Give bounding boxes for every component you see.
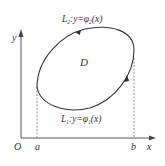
lower-curve-label: L1:y=φ1(x) (60, 114, 101, 125)
x-axis-arrow (149, 136, 156, 141)
x-axis-label: x (146, 141, 152, 152)
upper-direction-arrow (75, 30, 82, 36)
y-axis-arrow (19, 29, 24, 37)
region-label: D (79, 56, 88, 68)
point-a-label: a (35, 141, 40, 152)
upper-curve-label: L2:y=φ2(x) (61, 14, 102, 25)
double-integral-region-diagram: D L2:y=φ2(x) L1:y=φ1(x) y x O a b (0, 0, 165, 166)
y-axis-label: y (11, 32, 17, 43)
point-b-label: b (131, 141, 136, 152)
origin-label: O (14, 141, 21, 152)
right-direction-arrow (124, 75, 129, 82)
region-boundary-curve (37, 27, 134, 110)
